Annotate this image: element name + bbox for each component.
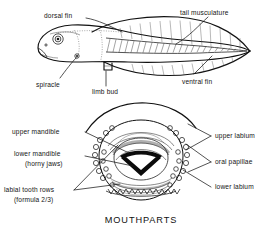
label-upper-mandible: upper mandible: [12, 128, 60, 136]
spiracle-dot: [76, 55, 78, 57]
label-labial-tooth-rows-sub: (formula 2/3): [14, 196, 53, 204]
lower-labium-bands: [110, 178, 172, 195]
label-dorsal-fin: dorsal fin: [44, 12, 72, 19]
ventral-fin-outline: [104, 51, 250, 76]
label-oral-papillae: oral papillae: [215, 158, 253, 166]
label-lower-labium: lower labium: [215, 183, 254, 190]
leader-upper-labium-b: [186, 136, 211, 150]
label-ventral-fin: ventral fin: [182, 78, 212, 85]
nostril: [45, 44, 47, 46]
leader-upper-labium-a: [188, 124, 211, 136]
leader-oral-papillae-a: [186, 144, 211, 162]
mouthparts-view: upper mandible lower mandible (horny jaw…: [4, 103, 255, 225]
label-upper-labium: upper labium: [215, 132, 255, 140]
tadpole-anatomy-figure: dorsal fin tail musculature spiracle lim…: [0, 0, 273, 238]
tail-muscle-lower-edge: [106, 51, 247, 53]
dorsal-fin-rays: [120, 21, 240, 50]
tadpole-body-outline: [38, 25, 250, 63]
label-tail-musculature: tail musculature: [180, 9, 229, 16]
upper-labium-bands: [108, 133, 174, 161]
ventral-fin-rays: [132, 58, 233, 76]
label-lower-mandible-sub: (horny jaws): [25, 160, 63, 168]
eye-pupil: [57, 38, 60, 41]
label-spiracle: spiracle: [36, 81, 60, 89]
lower-mandible-jaw: [121, 157, 161, 176]
leader-labial-tooth-rows-a: [74, 145, 118, 190]
label-lower-mandible: lower mandible: [14, 150, 61, 157]
head-contour-arc: [86, 103, 196, 132]
top-leader-lines: [60, 17, 212, 86]
leader-ventral-fin: [194, 56, 212, 74]
tadpole-lateral-view: dorsal fin tail musculature spiracle lim…: [36, 9, 250, 95]
tadpole-head-details: [38, 32, 80, 58]
mouthparts-caption: MOUTHPARTS: [105, 215, 177, 225]
leader-oral-papillae-b: [188, 162, 211, 172]
label-labial-tooth-rows: labial tooth rows: [4, 186, 55, 193]
trunk-boundary: [100, 30, 102, 63]
label-limb-bud: limb bud: [92, 88, 118, 95]
leader-lower-labium: [183, 170, 211, 187]
tail-myomeres: [107, 39, 236, 53]
